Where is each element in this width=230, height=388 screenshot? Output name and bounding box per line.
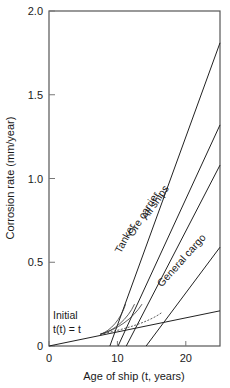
series-label: t(t) = t <box>53 323 81 335</box>
y-tick-label: 2.0 <box>28 5 43 17</box>
y-tick-label: 1.0 <box>28 173 43 185</box>
series-line <box>126 165 220 346</box>
series-label: Initial <box>53 309 78 321</box>
transition-curves <box>100 304 162 334</box>
x-tick-label: 0 <box>46 352 52 364</box>
y-tick-label: 0.5 <box>28 256 43 268</box>
plot-frame <box>49 11 220 346</box>
data-series <box>49 43 220 346</box>
corrosion-rate-chart: 0102000.51.01.52.0 Initialt(t) = tTanker… <box>0 0 230 388</box>
y-tick-label: 0 <box>37 340 43 352</box>
y-axis-label: Corrosion rate (mm/year) <box>4 117 16 240</box>
y-tick-label: 1.5 <box>28 89 43 101</box>
x-tick-label: 10 <box>111 352 123 364</box>
x-tick-label: 20 <box>180 352 192 364</box>
x-axis-label: Age of ship (t, years) <box>83 370 185 382</box>
plot-border <box>49 11 220 346</box>
